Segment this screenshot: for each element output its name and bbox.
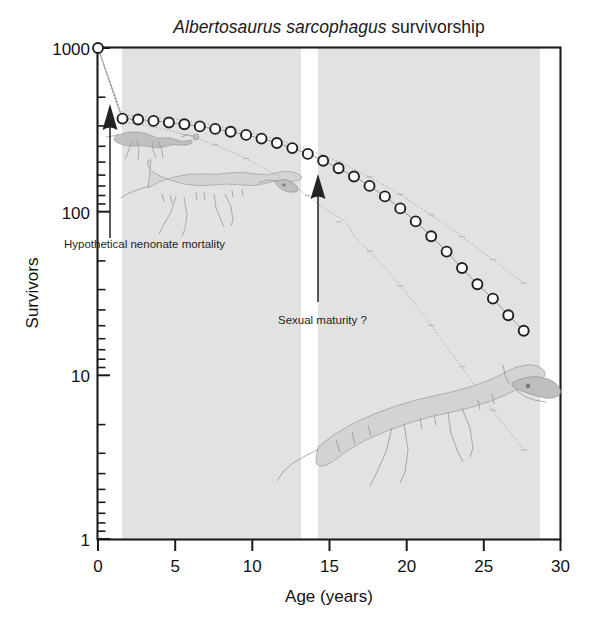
data-point — [395, 203, 405, 213]
data-point — [318, 156, 328, 166]
y-tick-label: 100 — [62, 204, 90, 223]
x-tick-label: 15 — [320, 557, 339, 576]
y-tick-label: 1000 — [52, 40, 90, 59]
data-point — [380, 191, 390, 201]
data-point — [241, 130, 251, 140]
data-point — [133, 115, 143, 125]
x-tick-label: 20 — [397, 557, 416, 576]
data-point — [472, 279, 482, 289]
survivorship-chart: Albertosaurus sarcophagus survivorship 1… — [0, 0, 604, 617]
data-point — [195, 121, 205, 131]
data-point — [411, 216, 421, 226]
data-point — [303, 149, 313, 159]
figure-canvas: Albertosaurus sarcophagus survivorship 1… — [0, 0, 604, 617]
data-point — [118, 114, 128, 124]
shaded-band-2 — [318, 48, 540, 539]
x-tick-label: 5 — [170, 557, 179, 576]
data-point — [272, 138, 282, 148]
x-axis-ticks — [98, 539, 561, 551]
data-point — [442, 247, 452, 257]
data-point — [93, 43, 103, 53]
data-point — [426, 231, 436, 241]
chart-title-italic: Albertosaurus sarcophagus — [172, 17, 386, 37]
neonate-mortality-arrow — [103, 104, 118, 238]
data-point — [519, 326, 529, 336]
data-point — [210, 124, 220, 134]
x-tick-label: 10 — [243, 557, 262, 576]
data-point — [179, 119, 189, 129]
data-point — [503, 310, 513, 320]
neonate-mortality-label: Hypothetical nenonate mortality — [64, 238, 225, 250]
y-tick-label: 10 — [71, 367, 90, 386]
y-axis-label: Survivors — [23, 258, 42, 329]
chart-title: Albertosaurus sarcophagus survivorship — [172, 17, 484, 37]
x-axis-label: Age (years) — [285, 587, 373, 606]
x-tick-label: 0 — [93, 557, 102, 576]
data-point — [349, 172, 359, 182]
sexual-maturity-label: Sexual maturity ? — [278, 314, 367, 326]
data-point — [488, 294, 498, 304]
data-point — [164, 118, 174, 128]
x-tick-labels: 0 5 10 15 20 25 30 — [93, 557, 570, 576]
x-tick-label: 30 — [551, 557, 570, 576]
data-point — [149, 116, 159, 126]
data-point — [365, 181, 375, 191]
data-point — [287, 143, 297, 153]
y-tick-labels: 1000 100 10 1 — [52, 40, 90, 550]
data-point — [226, 127, 236, 137]
data-point — [257, 134, 267, 144]
x-tick-label: 25 — [474, 557, 493, 576]
data-point — [457, 263, 467, 273]
chart-title-roman: survivorship — [391, 17, 484, 37]
y-tick-label: 1 — [81, 531, 90, 550]
data-point — [334, 163, 344, 173]
